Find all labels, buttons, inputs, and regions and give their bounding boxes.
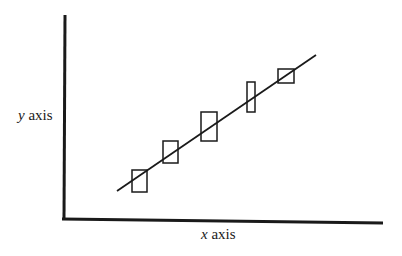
diagram-canvas bbox=[0, 0, 402, 256]
x-axis-label: x axis bbox=[201, 226, 236, 243]
error-box-1 bbox=[132, 170, 147, 192]
x-axis-line bbox=[62, 219, 383, 223]
error-box-2 bbox=[163, 141, 178, 163]
y-axis-line bbox=[64, 15, 65, 219]
error-box-3 bbox=[201, 112, 217, 141]
y-axis-label: y axis bbox=[18, 107, 53, 124]
